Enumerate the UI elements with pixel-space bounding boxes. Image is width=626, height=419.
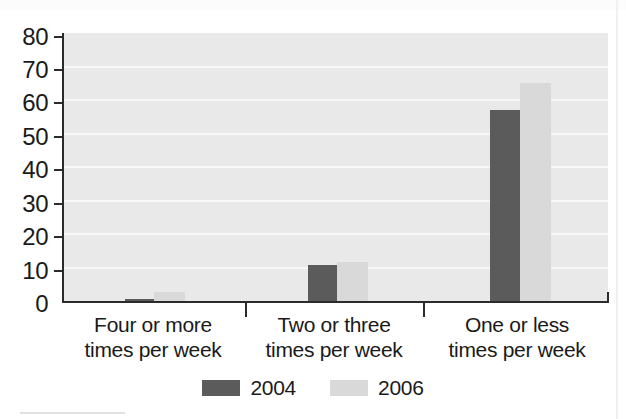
y-tick-mark-40	[54, 169, 63, 171]
x-axis-category-label-2: Two or three times per week	[234, 312, 434, 362]
legend-label-2006: 2006	[378, 376, 424, 400]
y-axis-label-10: 10	[0, 257, 48, 285]
y-tick-mark-50	[54, 136, 63, 138]
x-axis-category-label-1: Four or more times per week	[53, 312, 253, 362]
legend-swatch-icon-2006	[330, 380, 368, 396]
y-axis-label-80: 80	[0, 23, 48, 51]
y-axis-label-0: 0	[0, 290, 48, 318]
category-label-line-2: times per week	[234, 337, 434, 362]
plot-area	[63, 33, 608, 302]
gridline-70	[63, 66, 608, 68]
y-axis-line	[62, 33, 64, 303]
bar-2006-two-or-three	[337, 262, 368, 302]
chart-figure: 80 70 60 50 40 30 20 10 0 Four or more t…	[0, 0, 626, 419]
y-axis-label-60: 60	[0, 89, 48, 117]
x-axis-right-cap	[607, 292, 609, 303]
y-tick-mark-30	[54, 203, 63, 205]
x-axis-category-label-3: One or less times per week	[417, 312, 617, 362]
y-tick-mark-20	[54, 236, 63, 238]
scan-artifact-top	[0, 0, 626, 10]
y-tick-mark-10	[54, 270, 63, 272]
y-tick-mark-70	[54, 69, 63, 71]
legend-item-2006: 2006	[330, 376, 424, 400]
legend-label-2004: 2004	[250, 376, 296, 400]
y-tick-mark-60	[54, 102, 63, 104]
scan-artifact-bottom	[20, 412, 125, 414]
scan-artifact-right-edge	[616, 0, 618, 419]
legend-swatch-icon-2004	[202, 380, 240, 396]
category-label-line-1: Two or three	[234, 312, 434, 337]
x-axis-line	[62, 301, 609, 303]
y-axis-label-30: 30	[0, 190, 48, 218]
category-label-line-1: One or less	[417, 312, 617, 337]
category-label-line-2: times per week	[53, 337, 253, 362]
legend-item-2004: 2004	[202, 376, 296, 400]
y-tick-mark-80	[54, 36, 63, 38]
category-label-line-1: Four or more	[53, 312, 253, 337]
y-axis-label-50: 50	[0, 123, 48, 151]
bar-2004-two-or-three	[308, 265, 337, 302]
bar-2004-one-or-less	[490, 110, 520, 302]
category-label-line-2: times per week	[417, 337, 617, 362]
bar-2006-one-or-less	[520, 83, 551, 302]
y-axis-label-40: 40	[0, 156, 48, 184]
y-axis-label-70: 70	[0, 56, 48, 84]
y-axis-label-20: 20	[0, 223, 48, 251]
chart-legend: 2004 2006	[0, 376, 626, 400]
